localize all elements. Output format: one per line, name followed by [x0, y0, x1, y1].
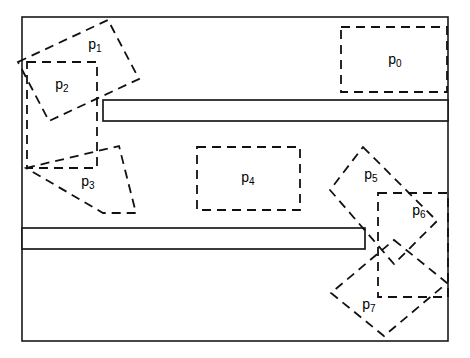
shape-label-p0: p0: [388, 51, 402, 69]
shape-label-subscript-p7: 7: [370, 303, 376, 314]
shape-label-subscript-p5: 5: [372, 173, 378, 184]
shape-label-p3: p3: [81, 173, 95, 191]
shape-label-base-p7: p: [362, 296, 370, 312]
shape-label-base-p4: p: [241, 169, 249, 185]
shape-label-p6: p6: [412, 202, 426, 220]
shape-label-base-p3: p: [81, 173, 89, 189]
shape-label-p4: p4: [241, 169, 255, 187]
shape-label-base-p2: p: [55, 76, 63, 92]
shape-label-p5: p5: [364, 166, 378, 184]
shape-label-base-p0: p: [388, 51, 396, 67]
diagram-canvas: p0p1p2p3p4p5p6p7: [0, 0, 470, 358]
shape-label-p2: p2: [55, 76, 69, 94]
shape-label-p1: p1: [88, 36, 102, 54]
shape-label-subscript-p2: 2: [63, 83, 69, 94]
shape-label-subscript-p1: 1: [96, 43, 102, 54]
shape-label-p7: p7: [362, 296, 376, 314]
labels-group: p0p1p2p3p4p5p6p7: [55, 36, 426, 314]
shape-label-base-p6: p: [412, 202, 420, 218]
shape-label-base-p1: p: [88, 36, 96, 52]
shape-p7[interactable]: [331, 240, 447, 336]
shape-label-subscript-p0: 0: [396, 58, 402, 69]
shape-label-subscript-p4: 4: [249, 176, 255, 187]
shape-label-base-p5: p: [364, 166, 372, 182]
lower-corridor-bar: [22, 228, 365, 249]
upper-corridor-bar: [103, 100, 448, 121]
placement-diagram-root: p0p1p2p3p4p5p6p7: [0, 0, 470, 358]
shape-label-subscript-p6: 6: [420, 209, 426, 220]
shape-label-subscript-p3: 3: [89, 180, 95, 191]
